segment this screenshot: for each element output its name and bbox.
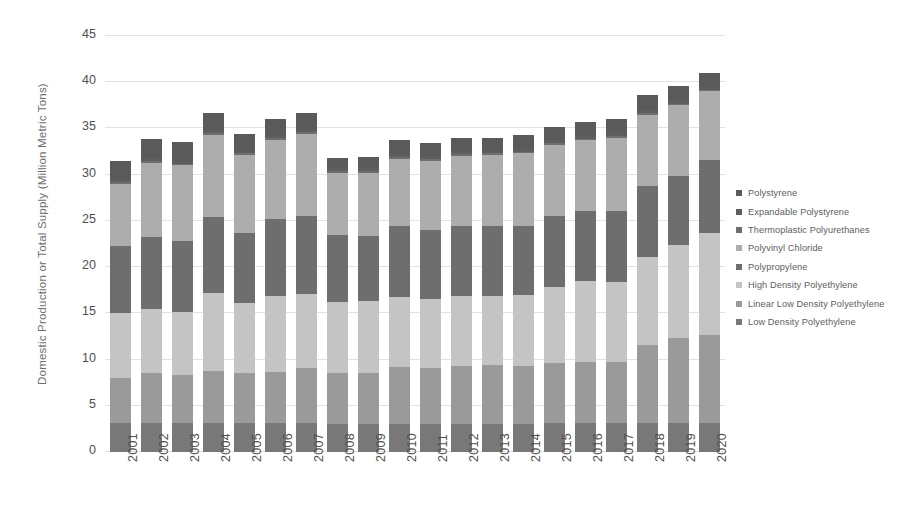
bar-segment[interactable] (110, 246, 131, 313)
bar-segment[interactable] (327, 302, 348, 373)
legend-item[interactable]: Thermoplastic Polyurethanes (736, 221, 922, 239)
bar-segment[interactable] (575, 140, 596, 210)
bar-segment[interactable] (668, 104, 689, 106)
bar-segment[interactable] (296, 134, 317, 216)
bar-segment[interactable] (358, 373, 379, 425)
bar-segment[interactable] (203, 130, 224, 133)
bar-segment[interactable] (141, 237, 162, 309)
bar-segment[interactable] (296, 132, 317, 134)
bar-segment[interactable] (699, 90, 720, 92)
bar-segment[interactable] (575, 211, 596, 281)
bar-segment[interactable] (234, 153, 255, 155)
bar-segment[interactable] (172, 165, 193, 241)
bar-segment[interactable] (234, 155, 255, 233)
bar-segment[interactable] (668, 176, 689, 245)
bar-segment[interactable] (389, 157, 410, 159)
bar-segment[interactable] (482, 365, 503, 424)
bar-segment[interactable] (110, 182, 131, 184)
bar-segment[interactable] (110, 313, 131, 378)
bar-segment[interactable] (544, 127, 565, 141)
bar-segment[interactable] (637, 110, 658, 113)
bar-segment[interactable] (327, 173, 348, 235)
bar-segment[interactable] (265, 140, 286, 220)
bar-segment[interactable] (296, 216, 317, 294)
bar-segment[interactable] (513, 226, 534, 295)
bar-segment[interactable] (234, 303, 255, 372)
bar-segment[interactable] (699, 233, 720, 335)
legend-item[interactable]: Polypropylene (736, 258, 922, 276)
bar-segment[interactable] (327, 168, 348, 171)
bar-segment[interactable] (420, 230, 441, 298)
bar-segment[interactable] (513, 149, 534, 152)
bar-segment[interactable] (296, 129, 317, 132)
bar-segment[interactable] (699, 335, 720, 424)
bar-segment[interactable] (358, 173, 379, 236)
bar-segment[interactable] (544, 216, 565, 287)
bar-segment[interactable] (358, 171, 379, 173)
bar-segment[interactable] (668, 86, 689, 101)
bar-segment[interactable] (606, 282, 627, 362)
bar-segment[interactable] (513, 152, 534, 154)
bar-segment[interactable] (389, 159, 410, 226)
bar-segment[interactable] (389, 154, 410, 157)
bar-segment[interactable] (575, 281, 596, 362)
bar-segment[interactable] (451, 296, 472, 366)
bar-segment[interactable] (606, 133, 627, 136)
bar-segment[interactable] (451, 152, 472, 155)
bar-segment[interactable] (265, 296, 286, 372)
bar-segment[interactable] (606, 211, 627, 282)
bar-segment[interactable] (513, 135, 534, 149)
legend-item[interactable]: Expandable Polystyrene (736, 202, 922, 220)
bar-segment[interactable] (265, 135, 286, 138)
bar-segment[interactable] (513, 295, 534, 366)
bar-segment[interactable] (482, 138, 503, 151)
bar-segment[interactable] (544, 143, 565, 145)
bar-segment[interactable] (234, 233, 255, 303)
bar-segment[interactable] (544, 145, 565, 216)
bar-segment[interactable] (172, 375, 193, 423)
bar-segment[interactable] (296, 113, 317, 130)
bar-segment[interactable] (141, 158, 162, 161)
bar-segment[interactable] (172, 164, 193, 166)
bar-segment[interactable] (327, 235, 348, 302)
bar-segment[interactable] (637, 186, 658, 257)
bar-segment[interactable] (482, 153, 503, 155)
bar-segment[interactable] (482, 151, 503, 154)
bar-segment[interactable] (451, 226, 472, 295)
bar-segment[interactable] (637, 95, 658, 110)
bar-segment[interactable] (296, 368, 317, 423)
bar-segment[interactable] (234, 151, 255, 154)
bar-segment[interactable] (606, 138, 627, 211)
bar-segment[interactable] (544, 140, 565, 143)
bar-segment[interactable] (699, 91, 720, 159)
bar-segment[interactable] (637, 115, 658, 186)
bar-segment[interactable] (451, 154, 472, 156)
bar-segment[interactable] (482, 226, 503, 296)
bar-segment[interactable] (327, 171, 348, 173)
bar-segment[interactable] (203, 371, 224, 424)
bar-segment[interactable] (265, 219, 286, 296)
bar-segment[interactable] (203, 113, 224, 131)
bar-segment[interactable] (420, 156, 441, 159)
bar-segment[interactable] (544, 363, 565, 423)
bar-segment[interactable] (358, 301, 379, 372)
bar-segment[interactable] (513, 153, 534, 225)
bar-segment[interactable] (110, 184, 131, 246)
bar-segment[interactable] (668, 105, 689, 175)
legend-item[interactable]: Linear Low Density Polyethylene (736, 294, 922, 312)
bar-segment[interactable] (451, 138, 472, 152)
bar-segment[interactable] (172, 241, 193, 312)
bar-segment[interactable] (141, 309, 162, 373)
bar-segment[interactable] (389, 367, 410, 424)
bar-segment[interactable] (327, 373, 348, 424)
bar-segment[interactable] (575, 139, 596, 141)
bar-segment[interactable] (203, 133, 224, 135)
bar-segment[interactable] (451, 156, 472, 226)
bar-segment[interactable] (420, 161, 441, 230)
bar-segment[interactable] (420, 143, 441, 156)
bar-segment[interactable] (420, 159, 441, 161)
bar-segment[interactable] (389, 226, 410, 296)
bar-segment[interactable] (110, 378, 131, 423)
bar-segment[interactable] (265, 372, 286, 424)
bar-segment[interactable] (203, 135, 224, 217)
